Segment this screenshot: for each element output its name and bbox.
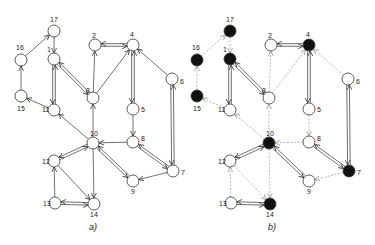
edge-6-4 <box>138 49 168 75</box>
node-label: 6 <box>180 78 184 85</box>
edge-7-6 <box>173 85 174 165</box>
node-14-a <box>88 198 100 210</box>
node-label: 2 <box>92 32 96 39</box>
edge-1-3 <box>57 64 88 95</box>
node-label: 1 <box>47 46 51 53</box>
node-label: 17 <box>50 16 58 23</box>
node-17-a <box>48 25 60 37</box>
edge-10-9 <box>96 148 127 178</box>
nodes-layer <box>15 25 355 210</box>
node-label: 9 <box>307 188 311 195</box>
node-label: 16 <box>16 44 24 51</box>
node-label: 17 <box>226 16 234 23</box>
node-label: 11 <box>42 106 49 113</box>
node-15-b <box>191 90 203 102</box>
node-label: 5 <box>141 106 145 113</box>
node-4-b <box>303 39 315 51</box>
edge-16-17 <box>202 35 226 56</box>
edge-12-10 <box>236 147 264 160</box>
panel-a <box>21 35 174 205</box>
edge-10-12 <box>235 144 263 157</box>
edge-14-13 <box>61 202 88 203</box>
node-label: 13 <box>43 200 51 207</box>
node-label: 2 <box>268 32 272 39</box>
edge-7-9 <box>315 172 343 179</box>
node-label: 6 <box>356 78 360 85</box>
node-label: 8 <box>141 135 145 142</box>
node-label: 16 <box>192 44 200 51</box>
node-label: 9 <box>131 188 135 195</box>
node-8-a <box>127 136 139 148</box>
node-label: 14 <box>90 211 98 218</box>
node-7-b <box>343 165 355 177</box>
node-2-a <box>89 39 101 51</box>
edge-13-12 <box>230 167 231 197</box>
node-6-a <box>166 73 178 85</box>
node-12-a <box>48 155 60 167</box>
edge-6-7 <box>347 85 348 165</box>
node-label: 7 <box>181 169 185 176</box>
node-label: 14 <box>266 211 274 218</box>
node-2-b <box>265 39 277 51</box>
node-1-b <box>224 53 236 65</box>
node-label: 10 <box>266 130 274 137</box>
panel-b <box>197 35 350 205</box>
node-17-b <box>224 25 236 37</box>
edge-7-9 <box>139 172 167 179</box>
edge-8-10 <box>99 142 127 143</box>
node-14-b <box>264 198 276 210</box>
node-10-b <box>263 137 275 149</box>
edge-3-4 <box>97 50 130 93</box>
edge-10-11 <box>235 114 265 139</box>
panel-label-a: a) <box>89 222 97 232</box>
edge-13-14 <box>237 204 264 205</box>
node-label: 12 <box>218 158 226 165</box>
node-4-a <box>127 39 139 51</box>
edge-13-14 <box>61 204 88 205</box>
graph-figure: 1716115113246510812791314a)1716115113246… <box>0 0 375 245</box>
node-label: 13 <box>219 200 227 207</box>
edge-8-7 <box>137 147 167 169</box>
node-label: 12 <box>42 158 50 165</box>
node-label: 15 <box>17 105 25 112</box>
node-10-a <box>87 137 99 149</box>
node-15-a <box>15 90 27 102</box>
node-label: 7 <box>357 169 361 176</box>
node-label: 1 <box>223 46 227 53</box>
edge-12-14 <box>234 165 266 199</box>
node-label: 10 <box>90 130 98 137</box>
node-5-b <box>303 103 315 115</box>
node-label: 15 <box>193 105 201 112</box>
edge-7-8 <box>315 144 345 166</box>
edge-1-3 <box>233 64 264 95</box>
edge-10-14 <box>93 149 94 198</box>
edge-6-4 <box>314 49 344 75</box>
edges-layer <box>21 35 350 205</box>
edge-12-14 <box>58 165 90 199</box>
node-label: 11 <box>218 106 225 113</box>
node-label: 4 <box>306 31 310 38</box>
node-9-b <box>303 175 315 187</box>
edge-9-10 <box>274 146 305 176</box>
edge-7-6 <box>349 85 350 165</box>
graph-diagram: 1716115113246510812791314a)1716115113246… <box>0 0 375 245</box>
edge-10-11 <box>59 114 89 139</box>
edge-13-12 <box>54 167 55 197</box>
node-8-b <box>303 136 315 148</box>
node-16-a <box>15 54 27 66</box>
edge-3-2 <box>93 51 95 92</box>
edge-16-17 <box>26 35 50 56</box>
edge-10-9 <box>272 148 303 178</box>
node-label: 3 <box>262 87 266 94</box>
node-5-a <box>127 103 139 115</box>
node-16-b <box>191 54 203 66</box>
node-label: 8 <box>317 135 321 142</box>
node-11-a <box>48 104 60 116</box>
node-7-a <box>167 165 179 177</box>
edge-8-10 <box>275 142 303 143</box>
edge-10-14 <box>269 149 270 198</box>
edge-10-12 <box>59 144 87 157</box>
node-11-b <box>224 104 236 116</box>
edge-3-4 <box>273 50 306 93</box>
node-label: 3 <box>86 87 90 94</box>
